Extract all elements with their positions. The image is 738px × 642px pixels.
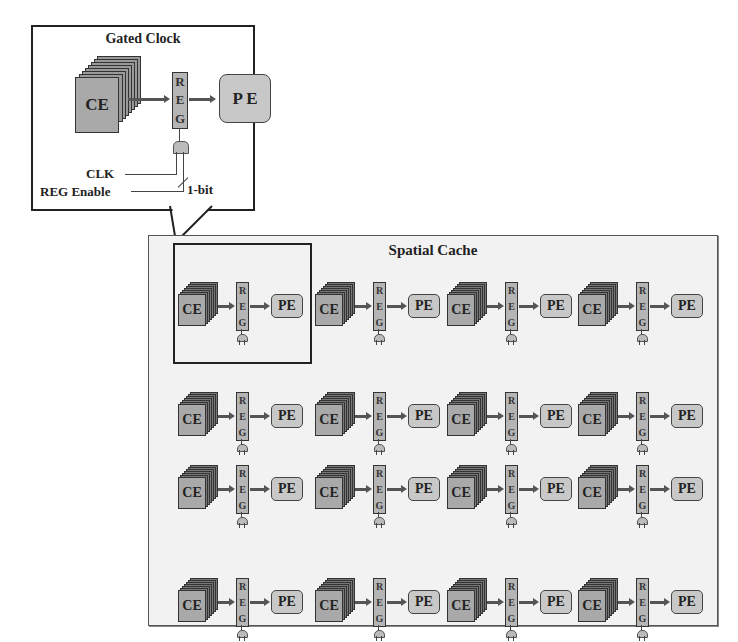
arrow-icon (650, 601, 665, 604)
gate-input (513, 636, 514, 641)
reg-letter: G (376, 427, 384, 438)
pe-block: PE (408, 404, 440, 428)
pe-block: PE (271, 477, 303, 501)
gate-input (381, 636, 382, 641)
reg-letter: R (239, 581, 246, 592)
reg-letter: G (239, 613, 247, 624)
reg-letter: E (376, 301, 383, 312)
pe-block: PE (540, 404, 572, 428)
gate-input (244, 340, 245, 345)
arrow-icon (355, 488, 367, 491)
arrow-icon (618, 601, 630, 604)
arrow-icon (650, 415, 665, 418)
gate-input (381, 340, 382, 345)
reg-letter: G (239, 317, 247, 328)
arrow-icon (650, 488, 665, 491)
reg-letter: R (639, 395, 646, 406)
pe-block: PE (671, 477, 703, 501)
reg-letter: G (508, 427, 516, 438)
ce-block: CE (315, 294, 343, 326)
arrow-icon (487, 488, 499, 491)
reg-block: R E G (505, 392, 518, 441)
reg-letter: R (376, 581, 383, 592)
arrow-icon (487, 305, 499, 308)
ce-block: CE (578, 294, 606, 326)
clk-wire-h (125, 174, 177, 175)
arrow-icon (487, 601, 499, 604)
gate-input (508, 523, 509, 528)
reg-block: R E G (373, 578, 386, 627)
gate-input (644, 450, 645, 455)
gate-input (639, 523, 640, 528)
callout-reg-block: R E G (172, 72, 188, 129)
ce-block: CE (578, 590, 606, 622)
gate-input (639, 450, 640, 455)
arrow-icon (387, 305, 402, 308)
gate-input (644, 523, 645, 528)
reg-block: R E G (636, 282, 649, 331)
gate-input (244, 450, 245, 455)
reg-letter: G (239, 427, 247, 438)
pe-block: PE (671, 294, 703, 318)
reg-block: R E G (236, 578, 249, 627)
enable-wire (183, 152, 184, 192)
reg-letter: E (639, 411, 646, 422)
arrow-icon (355, 601, 367, 604)
reg-letter: R (239, 395, 246, 406)
pe-block: PE (671, 590, 703, 614)
arrow-icon (618, 488, 630, 491)
reg-letter: E (639, 301, 646, 312)
arrow-icon (218, 305, 230, 308)
reg-letter: E (508, 301, 515, 312)
arrow-icon (250, 305, 265, 308)
pe-block: PE (540, 294, 572, 318)
pe-block: PE (408, 294, 440, 318)
reg-letter: E (376, 411, 383, 422)
callout-title: Gated Clock (33, 31, 253, 47)
ce-block: CE (447, 590, 475, 622)
reg-letter: R (239, 285, 246, 296)
gate-input (639, 636, 640, 641)
reg-letter: R (376, 395, 383, 406)
reg-letter: R (508, 285, 515, 296)
ce-block: CE (178, 477, 206, 509)
reg-letter: E (639, 597, 646, 608)
reg-letter: G (639, 613, 647, 624)
ce-block: CE (315, 477, 343, 509)
arrow-icon (128, 98, 165, 101)
connector-line (179, 128, 180, 142)
ce-block: CE (178, 590, 206, 622)
arrow-icon (618, 305, 630, 308)
gate-input (644, 340, 645, 345)
reg-letter: R (508, 468, 515, 479)
callout-pe-block: P E (219, 74, 271, 123)
ce-block: CE (178, 294, 206, 326)
arrow-icon (218, 415, 230, 418)
reg-letter: G (508, 500, 516, 511)
arrow-icon (519, 415, 534, 418)
gate-input (239, 450, 240, 455)
gate-input (513, 340, 514, 345)
arrow-icon (189, 98, 211, 101)
gate-input (508, 636, 509, 641)
arrow-icon (250, 488, 265, 491)
reg-block: R E G (236, 282, 249, 331)
reg-letter: G (175, 111, 185, 127)
reg-letter: E (239, 411, 246, 422)
clk-wire (176, 152, 177, 174)
gate-input (381, 450, 382, 455)
gate-input (513, 523, 514, 528)
reg-letter: E (376, 597, 383, 608)
arrow-icon (387, 415, 402, 418)
gate-input (376, 523, 377, 528)
reg-enable-label: REG Enable (40, 184, 110, 200)
clk-label: CLK (86, 166, 114, 182)
reg-letter: R (508, 581, 515, 592)
gate-input (644, 636, 645, 641)
ce-block: CE (447, 294, 475, 326)
gate-input (244, 523, 245, 528)
arrow-icon (218, 488, 230, 491)
pe-block: PE (408, 590, 440, 614)
pe-block: PE (271, 404, 303, 428)
reg-letter: E (508, 411, 515, 422)
